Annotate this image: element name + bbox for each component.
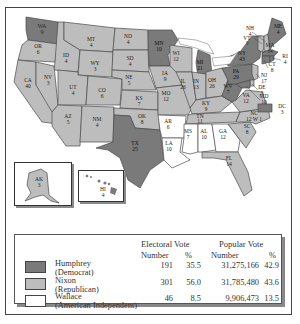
state-de [250, 80, 254, 86]
svg-text:4: 4 [284, 59, 287, 65]
humphrey-swatch [25, 261, 46, 273]
svg-text:4: 4 [96, 122, 99, 128]
state-tn [186, 112, 240, 124]
svg-text:13: 13 [193, 84, 199, 90]
svg-text:4: 4 [65, 58, 68, 64]
svg-text:3: 3 [94, 66, 97, 72]
svg-text:10: 10 [261, 99, 267, 105]
svg-text:25: 25 [132, 146, 138, 152]
svg-text:26: 26 [209, 83, 215, 89]
svg-text:40: 40 [25, 83, 31, 89]
humphrey-label: Humphrey (Democrat) [55, 259, 94, 277]
pop-percent-header: % [269, 251, 276, 260]
svg-text:8: 8 [246, 129, 249, 135]
nixon-pop-number: 31,785,480 [201, 278, 259, 287]
nixon-pop-pct: 43.6 [261, 278, 279, 287]
wallace-ev-pct: 8.5 [181, 294, 201, 303]
svg-text:12: 12 [173, 56, 179, 62]
svg-text:21: 21 [197, 65, 203, 71]
svg-text:14: 14 [267, 48, 273, 54]
state-nd [113, 28, 148, 50]
svg-text:9: 9 [205, 106, 208, 112]
wallace-pop-pct: 13.5 [261, 294, 279, 303]
svg-text:12: 12 [163, 96, 169, 102]
svg-text:4: 4 [72, 90, 75, 96]
humphrey-ev-number: 191 [149, 261, 173, 270]
svg-text:3: 3 [246, 40, 249, 46]
svg-text:4: 4 [129, 61, 132, 67]
svg-text:4: 4 [102, 192, 105, 198]
svg-text:26: 26 [180, 84, 186, 90]
nixon-ev-number: 301 [149, 278, 173, 287]
svg-text:8: 8 [271, 67, 274, 73]
svg-text:43: 43 [239, 56, 245, 62]
svg-text:4: 4 [127, 39, 130, 45]
svg-text:3: 3 [38, 182, 41, 188]
svg-text:4: 4 [277, 29, 280, 35]
svg-text:10: 10 [201, 134, 207, 140]
nixon-ev-pct: 56.0 [181, 278, 201, 287]
humphrey-ev-pct: 35.5 [181, 261, 201, 270]
wallace-swatch [25, 295, 46, 307]
svg-text:14: 14 [226, 161, 232, 167]
svg-text:6: 6 [167, 124, 170, 130]
svg-text:8: 8 [141, 119, 144, 125]
state-nj [252, 64, 258, 80]
wallace-ev-number: 46 [149, 294, 173, 303]
svg-text:10: 10 [166, 146, 172, 152]
svg-text:7: 7 [227, 89, 230, 95]
svg-text:11: 11 [197, 118, 203, 124]
results-legend: Electoral Vote Popular Vote Number % Num… [14, 234, 282, 304]
svg-text:7: 7 [138, 101, 141, 107]
alaska-inset: AK3 [14, 162, 72, 206]
humphrey-pop-pct: 42.9 [261, 261, 279, 270]
humphrey-pop-number: 31,275,166 [201, 261, 259, 270]
popular-vote-header: Popular Vote [219, 239, 263, 249]
svg-text:3: 3 [47, 80, 50, 86]
state-ak [25, 169, 59, 203]
svg-text:6: 6 [101, 93, 104, 99]
svg-text:3: 3 [281, 109, 284, 115]
ev-number-header: Number [141, 251, 168, 260]
hawaii-inset: HI4 [78, 170, 124, 202]
pop-number-header: Number [211, 251, 238, 260]
state-dc [258, 104, 272, 112]
svg-text:7: 7 [187, 134, 190, 140]
svg-text:5: 5 [67, 119, 70, 125]
wallace-pop-number: 9,906,473 [201, 294, 259, 303]
wallace-label: Wallace (American Independent) [55, 292, 137, 310]
svg-text:4: 4 [90, 42, 93, 48]
svg-text:12: 12 [220, 134, 226, 140]
svg-text:9: 9 [41, 29, 44, 35]
svg-text:10: 10 [156, 46, 162, 52]
state-ar [158, 115, 186, 138]
nixon-swatch [25, 278, 46, 290]
svg-text:29: 29 [233, 74, 239, 80]
svg-text:12 W 1: 12 W 1 [246, 116, 262, 122]
svg-text:9: 9 [164, 76, 167, 82]
ev-percent-header: % [185, 251, 192, 260]
svg-text:5: 5 [128, 80, 131, 86]
svg-text:6: 6 [37, 49, 40, 55]
electoral-vote-header: Electoral Vote [141, 239, 190, 249]
svg-text:12: 12 [243, 98, 249, 104]
state-az [52, 105, 82, 146]
svg-text:4: 4 [249, 31, 252, 37]
